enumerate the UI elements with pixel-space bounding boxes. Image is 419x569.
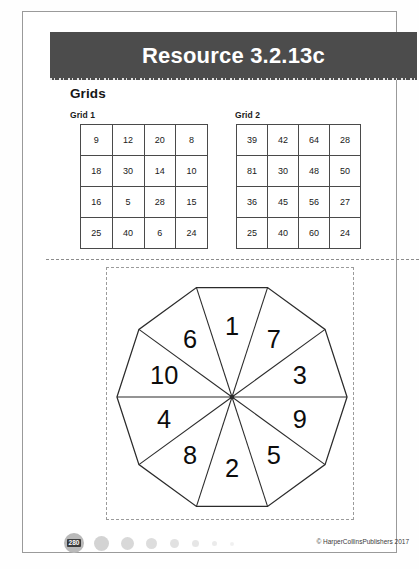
grid-cell: 14	[144, 156, 176, 187]
spinner-sector-number: 9	[293, 405, 307, 433]
footer-dot	[192, 540, 199, 547]
grid-cell: 27	[330, 187, 361, 218]
grid-cell: 40	[268, 218, 299, 249]
grid-cell: 24	[330, 218, 361, 249]
section-heading-grids: Grids	[70, 86, 106, 101]
grid-cell: 50	[330, 156, 361, 187]
grid-cell: 28	[330, 125, 361, 156]
page-header-band: Resource 3.2.13c	[50, 32, 417, 80]
grid-1-label: Grid 1	[70, 110, 95, 120]
spinner-sector-number: 6	[183, 325, 197, 353]
grid-row: 25406024	[237, 218, 361, 249]
decagon-spinner: 17395284106	[115, 280, 349, 514]
footer-dot	[170, 539, 179, 548]
spinner-sector-number: 7	[267, 325, 281, 353]
grid-row: 2540624	[81, 218, 208, 249]
copyright-notice: © HarperCollinsPublishers 2017	[316, 538, 409, 545]
grid-cell: 25	[81, 218, 113, 249]
spinner-sector-number: 5	[267, 441, 281, 469]
grid-row: 81304850	[237, 156, 361, 187]
grid-row: 1652815	[81, 187, 208, 218]
spinner-center-dot	[230, 395, 235, 400]
grid-cell: 40	[112, 218, 144, 249]
page-title: Resource 3.2.13c	[142, 45, 325, 67]
grid-cell: 16	[81, 187, 113, 218]
spinner-sector-number: 4	[157, 405, 171, 433]
grid-cell: 48	[299, 156, 330, 187]
grid-row: 912208	[81, 125, 208, 156]
grid-cell: 25	[237, 218, 268, 249]
grid-cell: 45	[268, 187, 299, 218]
grid-cell: 12	[112, 125, 144, 156]
footer-dot	[94, 536, 109, 551]
spinner-sector-number: 10	[150, 361, 178, 389]
grid-cell: 39	[237, 125, 268, 156]
page-number: 280	[67, 539, 82, 547]
grid-cell: 24	[176, 218, 208, 249]
grid-cell: 8	[176, 125, 208, 156]
grid-cell: 6	[144, 218, 176, 249]
page-number-badge: 280	[64, 533, 84, 553]
grid-cell: 10	[176, 156, 208, 187]
spinner-sector-number: 1	[225, 312, 239, 340]
grid-2-table: 39426428813048503645562725406024	[236, 124, 361, 249]
grid-cell: 64	[299, 125, 330, 156]
resource-page-sheet: Resource 3.2.13c Grids Grid 1 9122081830…	[22, 11, 397, 553]
grid-cell: 60	[299, 218, 330, 249]
page-footer: 280 © HarperCollinsPublishers 2017	[46, 528, 419, 561]
grid-cell: 36	[237, 187, 268, 218]
grid-cell: 30	[112, 156, 144, 187]
grid-cell: 9	[81, 125, 113, 156]
grid-cell: 30	[268, 156, 299, 187]
grid-row: 18301410	[81, 156, 208, 187]
spinner-sector-number: 3	[293, 361, 307, 389]
grid-cell: 42	[268, 125, 299, 156]
grid-1-table: 9122081830141016528152540624	[80, 124, 208, 249]
grid-cell: 18	[81, 156, 113, 187]
grid-cell: 28	[144, 187, 176, 218]
grid-row: 36455627	[237, 187, 361, 218]
section-divider	[46, 259, 419, 260]
footer-dot	[230, 542, 234, 546]
grid-cell: 81	[237, 156, 268, 187]
grid-cell: 20	[144, 125, 176, 156]
grid-2-label: Grid 2	[235, 110, 260, 120]
grid-cell: 5	[112, 187, 144, 218]
footer-dot	[212, 541, 217, 546]
footer-dot	[121, 537, 134, 550]
footer-dot	[146, 538, 157, 549]
spinner-sector-number: 2	[225, 454, 239, 482]
grid-cell: 56	[299, 187, 330, 218]
spinner-sector-number: 8	[183, 441, 197, 469]
grid-row: 39426428	[237, 125, 361, 156]
grid-cell: 15	[176, 187, 208, 218]
